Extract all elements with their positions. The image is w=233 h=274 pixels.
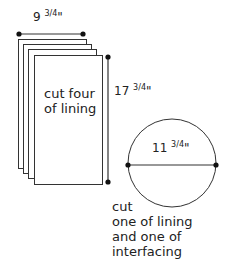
circle-piece bbox=[125, 119, 218, 207]
height-label: 17 3/4" bbox=[114, 83, 152, 99]
diameter-unit: " bbox=[184, 141, 190, 155]
width-dimension bbox=[16, 31, 85, 36]
height-fraction: 3/4 bbox=[133, 83, 146, 92]
pattern-diagram: 9 3/4" 17 3/4" cut four of lining 11 3/4… bbox=[0, 0, 233, 274]
width-whole: 9 bbox=[33, 10, 41, 24]
instruction-line: cut four bbox=[44, 87, 96, 102]
circle-instructions: cut one of lining and one of interfacing bbox=[112, 199, 193, 259]
width-label: 9 3/4" bbox=[33, 9, 63, 25]
diameter-fraction: 3/4 bbox=[171, 140, 184, 149]
diameter-label: 11 3/4" bbox=[152, 140, 190, 156]
instruction-line: and one of bbox=[112, 229, 193, 244]
height-whole: 17 bbox=[114, 84, 129, 98]
instruction-line: one of lining bbox=[112, 214, 193, 229]
height-unit: " bbox=[146, 84, 152, 98]
width-unit: " bbox=[57, 10, 63, 24]
instruction-line: interfacing bbox=[112, 244, 193, 259]
lining-piece-4 bbox=[35, 56, 103, 185]
width-fraction: 3/4 bbox=[44, 9, 57, 18]
rectangle-instructions: cut four of lining bbox=[44, 87, 96, 117]
height-dimension bbox=[105, 54, 110, 184]
instruction-line: of lining bbox=[44, 102, 96, 117]
diameter-whole: 11 bbox=[152, 141, 167, 155]
instruction-line: cut bbox=[112, 199, 193, 214]
